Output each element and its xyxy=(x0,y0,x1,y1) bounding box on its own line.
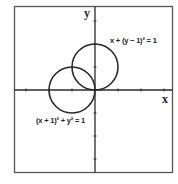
plot-area xyxy=(0,0,178,184)
y-axis-label: y xyxy=(84,6,90,21)
upper-equation-label: x + (y − 1)² = 1 xyxy=(110,36,157,45)
x-axis-label: x xyxy=(162,92,168,107)
lower-equation-label: (x + 1)² + y² = 1 xyxy=(36,116,85,125)
